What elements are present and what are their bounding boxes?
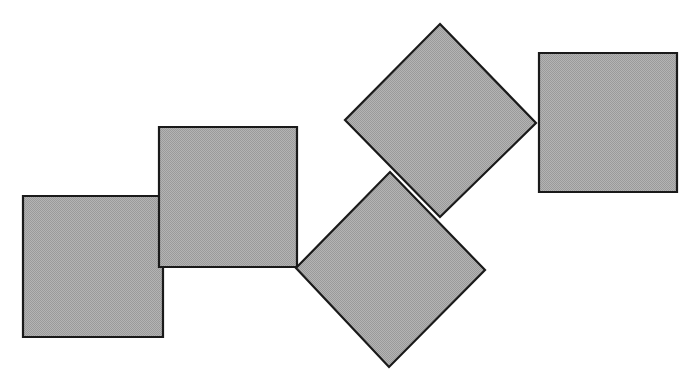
figure-canvas [0,0,696,386]
figure-svg [0,0,696,386]
square-shape-2 [159,127,297,267]
square-shape-1 [23,196,163,337]
square-shape-5 [539,53,677,192]
